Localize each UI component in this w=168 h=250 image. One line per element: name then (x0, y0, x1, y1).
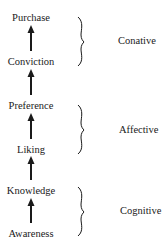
group-cognitive: Cognitive (120, 205, 161, 216)
arrowhead-icon (28, 156, 35, 164)
arrowhead-icon (28, 25, 35, 33)
brace-cognitive-icon (78, 187, 84, 236)
arrowhead-icon (28, 198, 35, 206)
group-affective: Affective (119, 124, 158, 135)
stage-preference: Preference (0, 100, 62, 111)
arrowhead-icon (28, 69, 35, 77)
stage-awareness: Awareness (0, 228, 62, 239)
arrowhead-icon (28, 113, 35, 121)
brace-conative-icon (78, 17, 84, 66)
stage-liking: Liking (0, 144, 62, 155)
group-conative: Conative (118, 35, 156, 46)
stage-purchase: Purchase (0, 12, 62, 23)
stage-knowledge: Knowledge (0, 185, 62, 196)
brace-affective-icon (78, 105, 84, 154)
stage-conviction: Conviction (0, 56, 62, 67)
brace-icons (78, 17, 84, 236)
